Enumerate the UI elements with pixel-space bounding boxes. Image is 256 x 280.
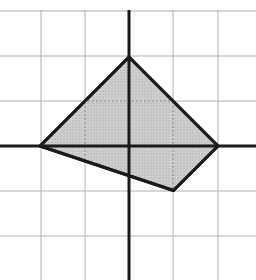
coordinate-grid-diagram — [0, 0, 256, 280]
